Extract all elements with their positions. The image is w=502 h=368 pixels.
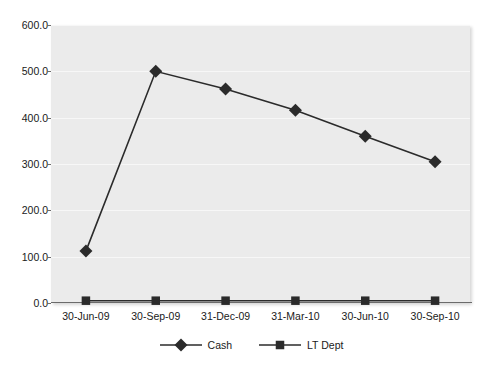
series-cash [79,65,441,258]
data-point-marker [152,296,161,305]
legend-marker [276,341,285,350]
data-point-marker [291,296,300,305]
line-chart: 600.0500.0400.0300.0200.0100.00.0 30-Jun… [0,0,502,368]
data-point-marker [221,296,230,305]
data-point-marker [431,296,440,305]
series-lt-dept [82,296,440,305]
legend-square-icon [258,337,302,353]
data-point-marker [82,296,91,305]
data-series-layer [0,0,502,368]
legend-label: Cash [208,339,233,351]
data-point-marker [149,65,162,78]
data-point-marker [219,82,232,95]
chart-legend: CashLT Dept [0,337,502,353]
data-point-marker [359,130,372,143]
legend-entry[interactable]: LT Dept [258,337,343,353]
data-point-marker [429,155,442,168]
series-line [86,71,435,251]
legend-label: LT Dept [307,339,343,351]
legend-marker [174,339,187,352]
legend-diamond-icon [159,337,203,353]
legend-entry[interactable]: Cash [159,337,233,353]
data-point-marker [361,296,370,305]
data-point-marker [79,245,92,258]
data-point-marker [289,104,302,117]
